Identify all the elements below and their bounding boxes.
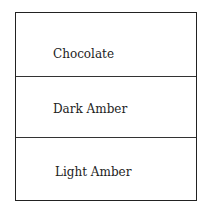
layer-dark-amber: Dark Amber <box>16 77 196 138</box>
layer-chocolate: Chocolate <box>16 13 196 77</box>
layer-label: Light Amber <box>55 165 131 179</box>
stacked-layers-box: Chocolate Dark Amber Light Amber <box>15 12 197 201</box>
layer-label: Chocolate <box>53 47 114 61</box>
layer-light-amber: Light Amber <box>16 138 196 200</box>
layer-label: Dark Amber <box>53 102 127 116</box>
